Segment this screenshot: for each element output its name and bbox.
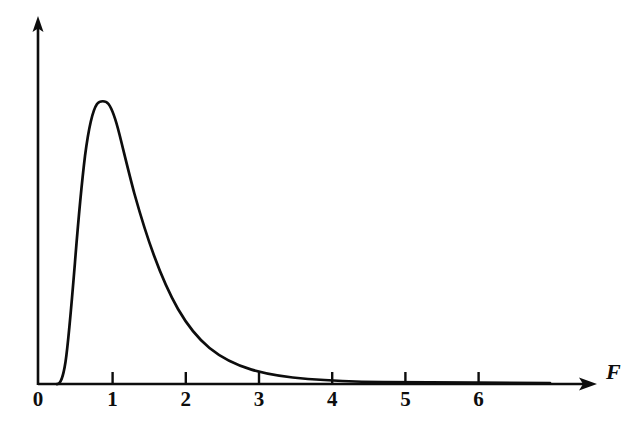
x-tick-label-5: 5	[390, 389, 420, 410]
x-tick-label-2: 2	[171, 389, 201, 410]
f-distribution-plot	[0, 0, 638, 430]
x-tick-label-3: 3	[244, 389, 274, 410]
x-tick-label-4: 4	[317, 389, 347, 410]
x-tick-label-6: 6	[464, 389, 494, 410]
x-tick-label-0: 0	[23, 389, 53, 410]
x-tick-label-1: 1	[98, 389, 128, 410]
density-curve	[57, 101, 550, 384]
figure-container: 0 1 2 3 4 5 6 F	[0, 0, 638, 430]
x-axis-title: F	[606, 361, 621, 383]
